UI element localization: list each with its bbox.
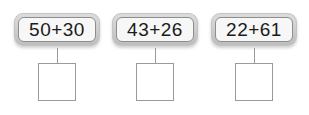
expression-card: 22+61: [211, 13, 297, 46]
expression-card-inner: 50+30: [18, 17, 96, 42]
expression-card: 43+26: [112, 13, 198, 46]
expression-text: 22+61: [226, 20, 282, 39]
problem-item: 50+30: [14, 0, 100, 115]
connector-line: [155, 48, 156, 64]
answer-box[interactable]: [136, 63, 174, 101]
addition-worksheet: 50+30 43+26 22+61: [0, 0, 309, 115]
expression-card-inner: 22+61: [215, 17, 293, 42]
expression-text: 43+26: [127, 20, 183, 39]
expression-card: 50+30: [14, 13, 100, 46]
problem-item: 43+26: [112, 0, 198, 115]
answer-box[interactable]: [38, 63, 76, 101]
problem-item: 22+61: [211, 0, 297, 115]
connector-line: [57, 48, 58, 64]
connector-line: [254, 48, 255, 64]
expression-text: 50+30: [29, 20, 85, 39]
answer-box[interactable]: [235, 63, 273, 101]
expression-card-inner: 43+26: [116, 17, 194, 42]
